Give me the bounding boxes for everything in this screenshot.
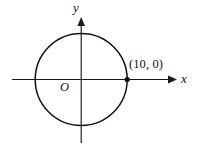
point-coordinate-label: (10, 0) — [129, 58, 163, 71]
x-axis-arrowhead — [168, 76, 177, 84]
x-axis-label: x — [181, 72, 187, 85]
coordinate-figure: y x O (10, 0) — [0, 0, 197, 151]
y-axis-arrowhead — [77, 17, 85, 26]
point-marker-10-0 — [125, 77, 130, 82]
origin-label: O — [60, 81, 69, 94]
y-axis-label: y — [73, 1, 79, 14]
figure-canvas — [0, 0, 197, 151]
